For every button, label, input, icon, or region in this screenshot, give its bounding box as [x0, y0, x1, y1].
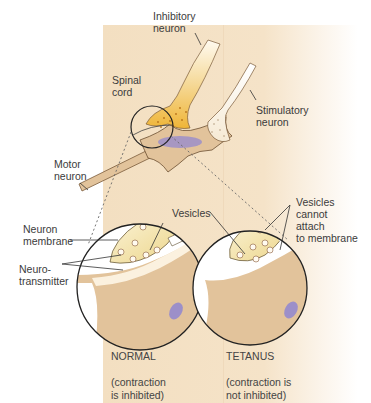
panel-normal-title: NORMAL: [111, 350, 166, 363]
label-stimulatory-neuron: Stimulatory neuron: [256, 104, 309, 128]
tetanus-detail: [190, 218, 310, 350]
label-vesicles-cannot-attach: Vesicles cannot attach to membrane: [296, 196, 358, 244]
label-vesicles-normal: Vesicles: [172, 207, 211, 219]
panel-normal: NORMAL (contraction is inhibited): [111, 337, 166, 403]
panel-tetanus-caption: (contraction is not inhibited): [226, 376, 291, 402]
label-motor-neuron: Motor neuron: [54, 158, 87, 182]
panel-normal-caption: (contraction is inhibited): [111, 376, 166, 402]
inhibitory-neuron: [146, 40, 220, 129]
label-neuron-membrane: Neuron membrane: [23, 223, 73, 247]
panel-tetanus: TETANUS (contraction is not inhibited): [226, 337, 291, 403]
label-neurotransmitter: Neuro- transmitter: [19, 263, 69, 287]
stimulatory-neuron: [208, 63, 256, 142]
label-inhibitory-neuron: Inhibitory neuron: [153, 10, 196, 34]
label-spinal-cord: Spinal cord: [112, 74, 141, 98]
panel-tetanus-title: TETANUS: [226, 350, 291, 363]
